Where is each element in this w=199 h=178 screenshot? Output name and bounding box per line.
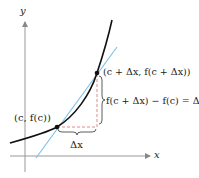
secant-diagram: y x (c, f(c)) (c + Δx, f(c + Δx)) f(c + … <box>0 0 199 178</box>
y-axis-label: y <box>20 6 26 16</box>
point2-label: (c + Δx, f(c + Δx)) <box>103 67 190 77</box>
point-c-dx <box>95 71 100 76</box>
x-axis-label: x <box>154 150 160 160</box>
point-c <box>55 125 60 130</box>
delta-x-label: Δx <box>70 140 83 150</box>
diagram-graphic <box>0 0 199 178</box>
delta-y-label: f(c + Δx) − f(c) = Δy <box>106 96 199 106</box>
point1-label: (c, f(c)) <box>14 113 51 123</box>
